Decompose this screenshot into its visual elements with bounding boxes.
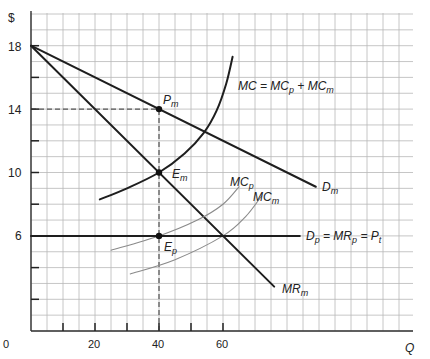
- x-tick-60: 60: [216, 338, 228, 350]
- y-tick-10: 10: [8, 166, 22, 180]
- curve-d-m: [31, 46, 316, 187]
- mcp-label: MCp: [230, 175, 254, 191]
- y-tick-6: 6: [15, 229, 22, 243]
- point-em: [156, 169, 162, 175]
- curve-mc: [100, 57, 233, 200]
- x-tick-0: 0: [3, 338, 9, 350]
- y-axis-label: $: [8, 11, 15, 25]
- dp-label: Dp = MRp = Pt: [306, 229, 382, 245]
- x-tick-20: 20: [88, 338, 100, 350]
- mcm-label: MCm: [253, 190, 280, 206]
- dm-label: Dm: [322, 180, 339, 196]
- axes: [31, 11, 413, 331]
- y-tick-14: 14: [8, 103, 22, 117]
- grid: [31, 13, 413, 331]
- point-pm: [156, 106, 162, 112]
- mc-label: MC = MCp + MCm: [238, 79, 334, 95]
- em-label: Em: [172, 167, 188, 183]
- monopsony-chart: $ Q 18 14 10 6 0 20 40 60 MC = MCp + MCm…: [0, 0, 430, 359]
- pm-label: Pm: [163, 93, 179, 109]
- mrm-label: MRm: [282, 282, 309, 298]
- x-tick-40: 40: [152, 338, 164, 350]
- y-tick-18: 18: [8, 40, 22, 54]
- x-axis-label: Q: [405, 341, 414, 355]
- point-ep: [156, 233, 162, 239]
